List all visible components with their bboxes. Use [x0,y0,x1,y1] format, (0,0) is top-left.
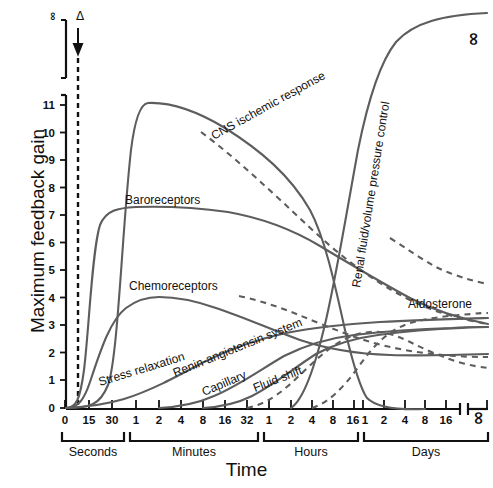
y-tick-1: 1 [49,374,56,386]
x-tick-sec-0: 0 [62,414,68,426]
label-aldosterone: Aldosterone [408,297,472,311]
x-tick-infinity: ∞ [467,411,488,426]
y-tick-11: 11 [43,99,56,111]
x-tick-day-2: 2 [381,414,387,426]
x-tick-sec-30: 30 [106,414,119,426]
y-tick-2: 2 [49,347,55,359]
y-tick-6: 6 [49,237,55,249]
stimulus-arrow-icon [74,28,82,54]
x-tick-hr-8: 8 [330,414,337,426]
x-tick-min-16: 16 [219,414,232,426]
x-axis-ticks [65,400,487,409]
x-tick-sec-15: 15 [83,414,96,426]
x-tick-hr-4: 4 [309,414,316,426]
label-baroreceptors: Baroreceptors [125,193,200,207]
x-tick-min-8: 8 [200,414,207,426]
y-tick-3: 3 [49,319,55,331]
label-renal-infinity: ∞ [462,32,483,47]
y-tick-4: 4 [49,292,56,304]
x-tick-min-4: 4 [178,414,185,426]
y-axis-infinity-bracket [61,20,66,78]
y-tick-0: 0 [49,402,55,414]
x-tick-min-32: 32 [241,414,254,426]
x-tick-day-1: 1 [362,414,369,426]
x-group-hours: Hours [294,445,327,459]
x-group-minutes: Minutes [172,445,216,459]
curve-upper-right-dashed-branch [390,238,488,284]
figure-root: Maximum feedback gain Time ∞ 11 1 [0,0,493,488]
label-capillary: Capillary [200,368,248,399]
x-tick-hr-2: 2 [288,414,294,426]
label-cns-ischemic-response: CNS ischemic response [209,68,328,142]
y-tick-8: 8 [49,182,56,194]
curve-chemoreceptors [66,297,488,408]
x-tick-min-1: 1 [133,414,140,426]
x-tick-day-4: 4 [402,414,409,426]
x-tick-day-16: 16 [440,414,453,426]
y-tick-infinity: ∞ [46,12,58,20]
x-group-seconds: Seconds [69,445,118,459]
y-tick-9: 9 [49,154,55,166]
x-tick-min-2: 2 [156,414,162,426]
y-axis-title: Maximum feedback gain [27,121,49,341]
y-tick-7: 7 [49,209,55,221]
x-group-days: Days [412,445,440,459]
x-axis-group-brackets [62,432,488,441]
x-tick-hr-16: 16 [347,414,360,426]
x-tick-hr-1: 1 [266,414,273,426]
chart-canvas: ∞ 11 10 9 8 7 6 5 4 3 2 1 0 Δ [0,0,493,488]
y-tick-5: 5 [49,264,56,276]
label-fluid-shift: Fluid shift [251,363,305,395]
delta-symbol: Δ [76,9,85,23]
x-axis-title: Time [0,459,493,481]
label-renal-fluid-volume-pressure-control: Renal fluid/volume pressure control [349,101,392,289]
label-chemoreceptors: Chemoreceptors [129,279,218,293]
x-tick-day-8: 8 [422,414,429,426]
